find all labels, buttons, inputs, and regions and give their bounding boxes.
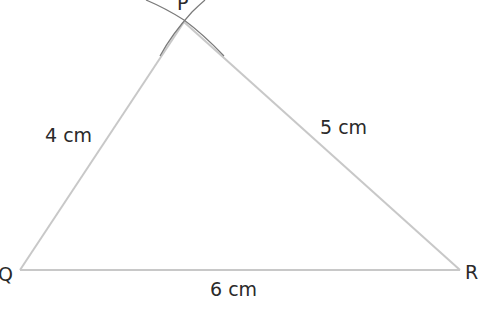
vertex-label-r: R [465,263,478,282]
side-label-pr: 5 cm [320,118,367,137]
vertex-label-p: P [177,0,188,13]
side-label-pq: 4 cm [45,126,92,145]
side-pq [20,22,184,270]
triangle-diagram [0,0,482,312]
side-pr [184,22,460,270]
vertex-label-q: Q [0,265,13,284]
side-label-qr: 6 cm [210,280,257,299]
